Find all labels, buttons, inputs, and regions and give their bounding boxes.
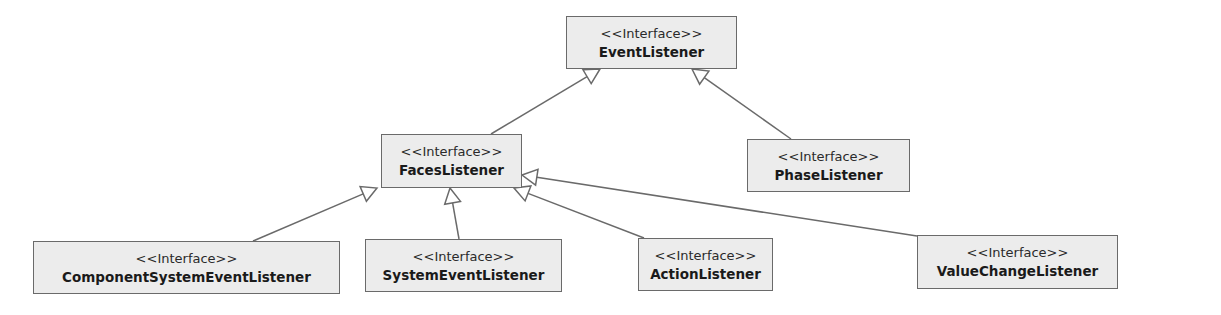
stereotype-label: <<Interface>> (413, 247, 515, 266)
stereotype-label: <<Interface>> (655, 246, 757, 265)
hollow-triangle-arrowhead-icon (445, 188, 461, 204)
hollow-triangle-arrowhead-icon (692, 69, 709, 84)
stereotype-label: <<Interface>> (136, 249, 238, 268)
node-phase-listener: <<Interface>> PhaseListener (747, 139, 910, 192)
generalization-arrow (491, 69, 600, 134)
stereotype-label: <<Interface>> (401, 142, 503, 161)
node-faces-listener: <<Interface>> FacesListener (381, 134, 522, 188)
hollow-triangle-arrowhead-icon (514, 186, 531, 201)
interface-name: ValueChangeListener (937, 262, 1099, 281)
stereotype-label: <<Interface>> (601, 24, 703, 43)
generalization-arrow (253, 187, 377, 242)
stereotype-label: <<Interface>> (967, 243, 1069, 262)
uml-diagram-canvas: <<Interface>> EventListener <<Interface>… (0, 0, 1221, 315)
hollow-triangle-arrowhead-icon (522, 169, 538, 185)
interface-name: EventListener (599, 43, 705, 62)
node-event-listener: <<Interface>> EventListener (566, 16, 737, 69)
interface-name: SystemEventListener (383, 266, 545, 285)
node-system-event-listener: <<Interface>> SystemEventListener (365, 239, 562, 292)
hollow-triangle-arrowhead-icon (583, 69, 600, 84)
node-component-system-event-listener: <<Interface>> ComponentSystemEventListen… (33, 241, 340, 294)
node-value-change-listener: <<Interface>> ValueChangeListener (917, 235, 1118, 289)
interface-name: PhaseListener (774, 166, 882, 185)
stereotype-label: <<Interface>> (778, 147, 880, 166)
node-action-listener: <<Interface>> ActionListener (638, 238, 773, 291)
generalization-arrow (514, 186, 644, 238)
generalization-arrow (692, 69, 791, 139)
interface-name: ActionListener (650, 265, 761, 284)
generalization-arrow (445, 188, 461, 239)
interface-name: FacesListener (399, 161, 504, 180)
hollow-triangle-arrowhead-icon (360, 187, 377, 202)
interface-name: ComponentSystemEventListener (62, 268, 311, 287)
